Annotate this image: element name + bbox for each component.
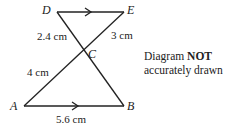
point-e-label: E <box>127 5 134 16</box>
length-dc-label: 2.4 cm <box>37 31 67 42</box>
diagram-note-line1: Diagram NOT <box>144 50 212 63</box>
length-ab-label: 5.6 cm <box>56 114 86 125</box>
point-c-label: C <box>88 49 96 60</box>
length-ec-label: 3 cm <box>111 30 133 41</box>
point-a-label: A <box>10 101 17 112</box>
diagram-note-line2: accurately drawn <box>144 64 223 77</box>
point-b-label: B <box>127 101 134 112</box>
point-d-label: D <box>42 5 51 16</box>
note-bold-not: NOT <box>187 50 212 62</box>
segment-ea <box>24 12 124 106</box>
note-prefix: Diagram <box>144 50 187 62</box>
length-ac-label: 4 cm <box>27 67 49 78</box>
